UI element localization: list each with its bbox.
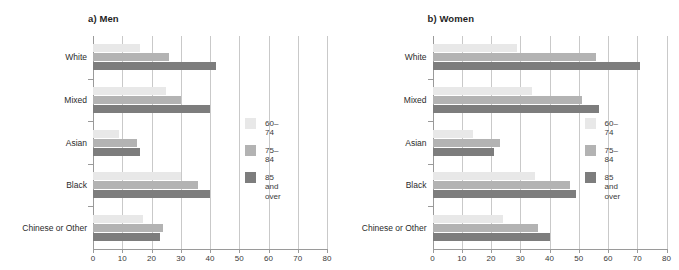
chart-panel-men: a) Men 01020304050607080WhiteMixedAsianB…: [0, 0, 340, 270]
bar: [93, 190, 210, 198]
legend-item[interactable]: 85 and over: [245, 172, 281, 201]
bar: [93, 233, 160, 241]
category-label-white: White: [65, 52, 87, 62]
bar-group: [93, 172, 327, 198]
x-axis-tick: [298, 249, 299, 253]
bar-group: [433, 87, 667, 113]
x-axis-tick-label: 0: [91, 254, 95, 263]
legend-label: 60–74: [605, 119, 618, 138]
x-axis-tick: [550, 249, 551, 253]
x-axis-tick: [327, 249, 328, 253]
x-axis-tick-label: 0: [430, 254, 434, 263]
legend-label: 60–74: [265, 119, 278, 138]
y-axis-tick: [428, 79, 433, 80]
category-label-black: Black: [66, 180, 87, 190]
y-axis-tick: [428, 206, 433, 207]
x-axis-tick: [239, 249, 240, 253]
bar: [93, 53, 169, 61]
x-axis-tick: [181, 249, 182, 253]
bar: [93, 130, 119, 138]
legend-swatch-icon: [585, 172, 596, 183]
legend-swatch-icon: [245, 145, 256, 156]
x-axis-tick-label: 40: [545, 254, 554, 263]
gridline: [327, 36, 328, 249]
category-label-black: Black: [406, 180, 427, 190]
bar: [433, 190, 576, 198]
x-axis-tick-label: 70: [293, 254, 302, 263]
x-axis-tick: [462, 249, 463, 253]
bar-group: [93, 44, 327, 70]
bar: [93, 44, 140, 52]
bar: [93, 139, 137, 147]
bar: [93, 215, 143, 223]
gridline: [667, 36, 668, 249]
x-axis-tick-label: 70: [633, 254, 642, 263]
bar: [93, 172, 181, 180]
x-axis-tick: [269, 249, 270, 253]
x-axis-tick-label: 50: [235, 254, 244, 263]
legend-label: 85 and over: [605, 173, 621, 202]
legend-item[interactable]: 75–84: [585, 145, 618, 165]
y-axis-tick: [88, 164, 93, 165]
chart-panel-women: b) Women 01020304050607080WhiteMixedAsia…: [340, 0, 679, 270]
x-axis-tick-label: 30: [516, 254, 525, 263]
category-label-mixed: Mixed: [404, 95, 427, 105]
x-axis-tick: [210, 249, 211, 253]
bar: [93, 224, 163, 232]
plot-area-men: [93, 36, 327, 249]
x-axis-tick-label: 10: [118, 254, 127, 263]
x-axis-tick-label: 50: [574, 254, 583, 263]
legend-item[interactable]: 85 and over: [585, 172, 621, 201]
bar: [433, 87, 532, 95]
y-axis-tick: [88, 206, 93, 207]
category-label-asian: Asian: [66, 138, 87, 148]
bar: [93, 181, 198, 189]
x-axis-tick-label: 60: [604, 254, 613, 263]
bar: [433, 105, 600, 113]
x-axis-tick: [520, 249, 521, 253]
x-axis-tick-label: 80: [323, 254, 332, 263]
y-axis-tick: [88, 121, 93, 122]
x-axis-tick: [579, 249, 580, 253]
legend-item[interactable]: 60–74: [245, 118, 278, 138]
y-axis-tick: [428, 121, 433, 122]
legend-swatch-icon: [585, 118, 596, 129]
legend-swatch-icon: [245, 172, 256, 183]
bar: [93, 87, 166, 95]
bar: [433, 172, 535, 180]
bar: [433, 96, 582, 104]
bar: [433, 215, 503, 223]
bar: [93, 148, 140, 156]
bar-group: [433, 172, 667, 198]
x-axis-tick: [608, 249, 609, 253]
legend-swatch-icon: [585, 145, 596, 156]
category-label-asian: Asian: [405, 138, 426, 148]
legend-label: 75–84: [605, 146, 618, 165]
bar: [433, 224, 538, 232]
bar-group: [433, 130, 667, 156]
category-label-white: White: [405, 52, 427, 62]
x-axis-tick: [152, 249, 153, 253]
bar: [93, 96, 181, 104]
bar: [433, 53, 597, 61]
legend-item[interactable]: 75–84: [245, 145, 278, 165]
bar: [433, 62, 641, 70]
panel-title-women: b) Women: [428, 13, 475, 24]
legend-swatch-icon: [245, 118, 256, 129]
bar: [433, 139, 500, 147]
plot-area-women: [433, 36, 667, 249]
x-axis-tick: [433, 249, 434, 253]
x-axis-tick-label: 60: [264, 254, 273, 263]
x-axis-tick-label: 20: [147, 254, 156, 263]
legend-label: 75–84: [265, 146, 278, 165]
bar-group: [433, 44, 667, 70]
legend-item[interactable]: 60–74: [585, 118, 618, 138]
bar-group: [93, 130, 327, 156]
x-axis-tick: [122, 249, 123, 253]
category-label-chinese-or-other: Chinese or Other: [22, 223, 87, 233]
bar-group: [433, 215, 667, 241]
bar: [433, 130, 474, 138]
bar: [433, 233, 550, 241]
legend-label: 85 and over: [265, 173, 281, 202]
grouped-bar-chart-figure: a) Men 01020304050607080WhiteMixedAsianB…: [0, 0, 679, 270]
